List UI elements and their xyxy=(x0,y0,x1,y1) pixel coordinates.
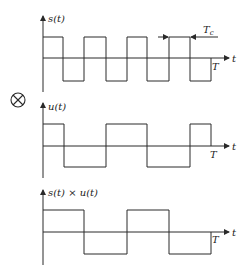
period-label-T: T xyxy=(210,149,218,160)
period-label-T: T xyxy=(212,61,220,72)
tc-label: Tc xyxy=(203,24,214,37)
xlabel-t: t xyxy=(232,141,237,152)
diagram-svg: s(t) t T Tc u(t) t T s(t) × u(t) t T xyxy=(0,0,242,277)
ylabel-s: s(t) xyxy=(48,13,65,24)
ylabel-product: s(t) × u(t) xyxy=(48,187,98,198)
plot-product: s(t) × u(t) t T xyxy=(43,187,237,265)
spread-spectrum-diagram: s(t) t T Tc u(t) t T s(t) × u(t) t T xyxy=(0,0,242,277)
waveform-s xyxy=(43,37,211,81)
xlabel-t: t xyxy=(232,227,237,238)
plot-s: s(t) t T Tc xyxy=(43,13,237,92)
multiply-operator-icon xyxy=(11,93,25,107)
ylabel-u: u(t) xyxy=(48,101,66,112)
xlabel-t: t xyxy=(232,53,237,64)
period-label-T: T xyxy=(212,234,220,245)
plot-u: u(t) t T xyxy=(43,101,237,178)
